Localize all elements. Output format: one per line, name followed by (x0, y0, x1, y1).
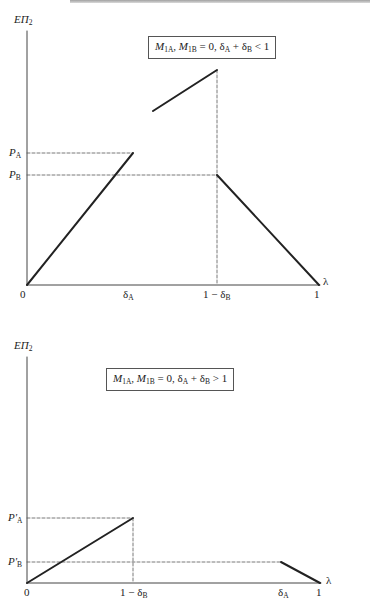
chart-2-tick-pb-prime: P'B (8, 556, 22, 569)
chart-1-y-axis-label: EΠ2 (14, 14, 32, 27)
chart-2-tick-1: 1 (316, 587, 322, 598)
chart-1-tick-0: 0 (20, 289, 26, 300)
chart-1-x-axis-label: λ (323, 276, 328, 287)
chart-1-tick-pa: PA (9, 147, 21, 160)
chart-2 (27, 357, 321, 583)
chart-2-segment-rise (27, 518, 133, 583)
chart-1-tick-pb: PB (9, 169, 21, 182)
chart-1 (27, 31, 320, 285)
chart-1-segment-rise (27, 153, 133, 285)
chart-1-tick-delta-a: δA (123, 289, 134, 302)
chart-2-segment-fall (281, 562, 320, 583)
chart-2-tick-1-minus-delta-b: 1 − δB (120, 587, 147, 600)
chart-2-y-axis-label: EΠ2 (14, 340, 32, 353)
chart-2-tick-0: 0 (24, 587, 30, 598)
chart-2-tick-pa-prime: P'A (8, 512, 23, 525)
chart-1-condition-box: M1A, M1B = 0, δA + δB < 1 (148, 36, 276, 59)
chart-1-segment-middle (153, 70, 217, 111)
chart-1-tick-1-minus-delta-b: 1 − δB (203, 289, 230, 302)
chart-1-tick-1: 1 (314, 289, 320, 300)
chart-2-tick-delta-a: δA (278, 587, 289, 600)
chart-2-x-axis-label: λ (326, 575, 331, 586)
chart-canvas (0, 0, 375, 604)
chart-2-condition-box: M1A, M1B = 0, δA + δB > 1 (106, 368, 234, 391)
chart-1-segment-fall (217, 175, 319, 285)
